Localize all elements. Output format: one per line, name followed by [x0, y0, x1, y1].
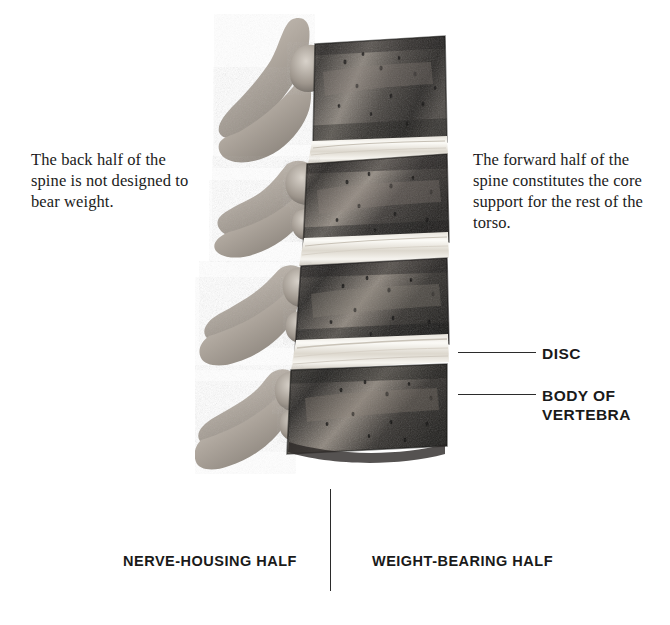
leader-line-body-of-vertebra	[458, 394, 536, 395]
note-forward-half: The forward half of the spine constitute…	[473, 149, 651, 233]
figure-canvas: The back half of the spine is not design…	[0, 0, 670, 625]
vertical-divider-icon	[330, 489, 331, 591]
leader-line-disc	[458, 352, 536, 353]
vertebra-4	[195, 354, 453, 469]
callout-label-disc: DISC	[542, 344, 581, 363]
caption-weight-bearing-half: WEIGHT-BEARING HALF	[355, 551, 570, 572]
note-back-half: The back half of the spine is not design…	[31, 149, 201, 212]
callout-label-body-of-vertebra: BODY OF VERTEBRA	[542, 386, 662, 424]
spine-illustration	[195, 14, 465, 490]
caption-nerve-housing-half: NERVE-HOUSING HALF	[110, 551, 310, 572]
